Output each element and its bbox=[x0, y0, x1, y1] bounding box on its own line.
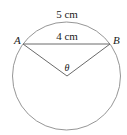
chord-length-label: 4 cm bbox=[56, 30, 78, 42]
radius-b bbox=[67, 44, 110, 76]
arc-length-label: 5 cm bbox=[56, 8, 78, 20]
angle-theta-label: θ bbox=[65, 62, 70, 73]
circle-diagram: 5 cm 4 cm A B θ bbox=[0, 0, 127, 135]
point-a-label: A bbox=[13, 34, 21, 46]
point-b-label: B bbox=[113, 34, 120, 46]
radius-a bbox=[23, 44, 67, 76]
